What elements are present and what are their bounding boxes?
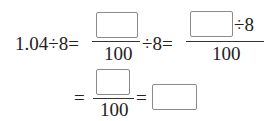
equals-sign-row2: = <box>74 88 85 107</box>
expression-lhs: 1.04÷8= <box>15 34 79 53</box>
numerator-divide-8: ÷8 <box>234 15 254 34</box>
fraction-bar-1 <box>92 41 140 42</box>
equals-sign-row2b: = <box>136 88 147 107</box>
answer-box-4[interactable] <box>152 84 197 110</box>
denominator-3: 100 <box>100 100 129 119</box>
divide-8-equals: ÷8= <box>142 34 173 53</box>
answer-box-2[interactable] <box>190 11 233 37</box>
answer-box-3[interactable] <box>96 69 130 95</box>
denominator-2: 100 <box>212 44 241 63</box>
denominator-1: 100 <box>104 44 133 63</box>
answer-box-1[interactable] <box>96 12 138 38</box>
fraction-bar-2 <box>186 41 264 42</box>
